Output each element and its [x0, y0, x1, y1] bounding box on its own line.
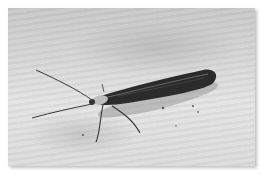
moth-antenna — [36, 70, 92, 100]
moth-leg — [102, 84, 104, 92]
moth-illustration — [8, 8, 255, 166]
moth-leg — [96, 105, 103, 142]
moth-photo — [8, 8, 255, 166]
moth-antenna — [32, 104, 92, 118]
